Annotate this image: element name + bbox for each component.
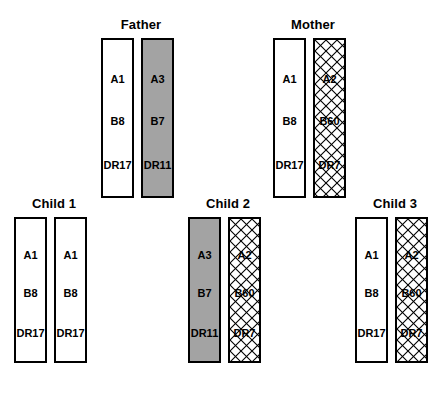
- allele-stack: A1 B8 DR17: [16, 219, 45, 361]
- allele-b: B8: [56, 287, 85, 299]
- allele-dr: DR7: [315, 159, 344, 171]
- allele-a: A2: [397, 249, 426, 261]
- allele-a: A1: [275, 73, 304, 85]
- allele-b: B8: [16, 287, 45, 299]
- allele-b: B8: [275, 115, 304, 127]
- allele-a: A1: [103, 73, 132, 85]
- person-title-child-1: Child 1: [14, 196, 94, 211]
- haplotype-pair-child-1: A1 B8 DR17 A1 B8 DR17: [14, 217, 87, 363]
- allele-b: B60: [397, 287, 426, 299]
- haplotype-bar-mother-2[interactable]: A2 B60 DR7: [313, 38, 346, 198]
- haplotype-pair-child-2: A3 B7 DR11 A2 B60: [188, 217, 261, 363]
- allele-a: A2: [230, 249, 259, 261]
- allele-stack: A1 B8 DR17: [56, 219, 85, 361]
- allele-a: A1: [16, 249, 45, 261]
- allele-a: A1: [56, 249, 85, 261]
- allele-a: A2: [315, 73, 344, 85]
- haplotype-bar-child-2-1[interactable]: A3 B7 DR11: [188, 217, 221, 363]
- person-title-child-2: Child 2: [188, 196, 268, 211]
- allele-stack: A1 B8 DR17: [357, 219, 386, 361]
- allele-b: B8: [103, 115, 132, 127]
- allele-dr: DR17: [275, 159, 304, 171]
- allele-stack: A3 B7 DR11: [143, 40, 172, 196]
- haplotype-bar-father-2[interactable]: A3 B7 DR11: [141, 38, 174, 198]
- allele-stack: A1 B8 DR17: [275, 40, 304, 196]
- allele-dr: DR7: [397, 327, 426, 339]
- allele-dr: DR11: [143, 159, 172, 171]
- allele-stack: A2 B60 DR7: [315, 40, 344, 196]
- allele-b: B60: [315, 115, 344, 127]
- haplotype-bar-father-1[interactable]: A1 B8 DR17: [101, 38, 134, 198]
- allele-a: A1: [357, 249, 386, 261]
- allele-dr: DR17: [357, 327, 386, 339]
- haplotype-pair-mother: A1 B8 DR17 A2 B60: [273, 38, 346, 198]
- haplotype-bar-child-1-1[interactable]: A1 B8 DR17: [14, 217, 47, 363]
- allele-b: B8: [357, 287, 386, 299]
- allele-stack: A2 B60 DR7: [230, 219, 259, 361]
- allele-stack: A2 B60 DR7: [397, 219, 426, 361]
- person-title-child-3: Child 3: [355, 196, 435, 211]
- haplotype-pedigree-figure: Father A1 B8 DR17 A3 B7 DR11 Mother: [0, 0, 447, 410]
- allele-dr: DR11: [190, 327, 219, 339]
- allele-dr: DR17: [56, 327, 85, 339]
- haplotype-bar-child-1-2[interactable]: A1 B8 DR17: [54, 217, 87, 363]
- haplotype-bar-child-3-1[interactable]: A1 B8 DR17: [355, 217, 388, 363]
- haplotype-bar-child-3-2[interactable]: A2 B60 DR7: [395, 217, 428, 363]
- person-title-father: Father: [101, 17, 181, 32]
- person-title-mother: Mother: [273, 17, 353, 32]
- haplotype-bar-child-2-2[interactable]: A2 B60 DR7: [228, 217, 261, 363]
- allele-b: B60: [230, 287, 259, 299]
- allele-dr: DR17: [103, 159, 132, 171]
- allele-b: B7: [143, 115, 172, 127]
- allele-dr: DR7: [230, 327, 259, 339]
- haplotype-pair-father: A1 B8 DR17 A3 B7 DR11: [101, 38, 174, 198]
- allele-a: A3: [143, 73, 172, 85]
- allele-stack: A3 B7 DR11: [190, 219, 219, 361]
- allele-a: A3: [190, 249, 219, 261]
- haplotype-pair-child-3: A1 B8 DR17 A2 B60: [355, 217, 428, 363]
- allele-dr: DR17: [16, 327, 45, 339]
- allele-stack: A1 B8 DR17: [103, 40, 132, 196]
- allele-b: B7: [190, 287, 219, 299]
- haplotype-bar-mother-1[interactable]: A1 B8 DR17: [273, 38, 306, 198]
